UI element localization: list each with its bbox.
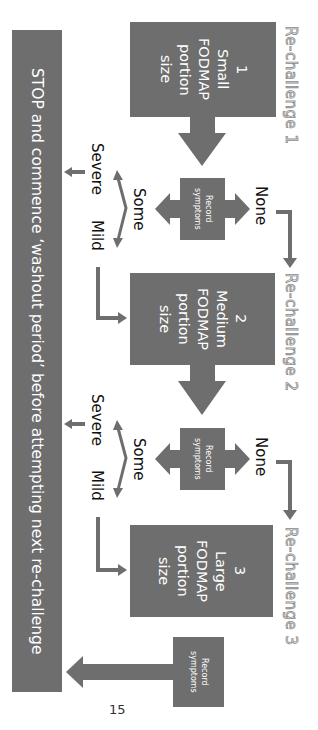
rechallenge-1-size: Small [213, 49, 232, 89]
symptoms-label: symptoms [189, 651, 198, 693]
rechallenge-3-step: 3 [230, 566, 249, 575]
rechallenge-2-size: Medium [212, 290, 231, 348]
record-symptoms-2: Recordsymptoms [180, 428, 225, 490]
outcome-none-2: None [252, 437, 270, 476]
outcome-none-1: None [252, 186, 270, 225]
page-number: 15 [109, 702, 126, 717]
fork-some2 [118, 428, 126, 490]
portion-label: portion [173, 545, 192, 597]
record-label: Record [204, 445, 213, 473]
outcome-severe-1: Severe [88, 143, 106, 195]
rechallenge-1-step: 1 [232, 65, 251, 74]
size-label: size [156, 55, 175, 83]
rechallenge-3-box: 3 Large FODMAP portion size [130, 525, 273, 617]
arrow-severe2-to-stop [64, 419, 85, 429]
arrow-box1-to-record1 [178, 117, 226, 166]
arrow-none1-to-box2 [276, 212, 290, 258]
record-symptoms-1: Recordsymptoms [180, 178, 225, 240]
outcome-mild-1: Mild [88, 220, 106, 251]
fork-some1 [118, 178, 126, 240]
symptoms-label: symptoms [193, 188, 202, 230]
rechallenge-2-title: Re-challenge 2 [282, 273, 300, 391]
portion-label: portion [174, 293, 193, 345]
rechallenge-3-title: Re-challenge 3 [282, 527, 300, 645]
size-label: size [155, 305, 174, 333]
outcome-some-2: Some [130, 438, 148, 481]
arrow-box2-to-record2 [178, 365, 226, 415]
stop-washout-bar: STOP and commence ‘washout period’ befor… [12, 30, 62, 692]
outcome-mild-2: Mild [88, 470, 106, 501]
arrow-mild2-to-box3 [98, 517, 118, 570]
record-label: Record [204, 195, 213, 223]
rechallenge-2-box: 2 Medium FODMAP portion size [130, 273, 275, 365]
fodmap-label: FODMAP [193, 288, 212, 350]
symptoms-label: symptoms [193, 438, 202, 480]
rechallenge-2-step: 2 [231, 314, 250, 323]
outcome-some-1: Some [130, 188, 148, 231]
arrow-record3-to-stop [66, 656, 175, 688]
stop-washout-text: STOP and commence ‘washout period’ befor… [12, 30, 62, 692]
rechallenge-3-size: Large [211, 551, 230, 592]
record-label: Record [200, 658, 209, 686]
arrow-mild1-to-box2 [98, 267, 118, 318]
fodmap-label: FODMAP [194, 38, 213, 100]
arrow-severe1-to-stop [64, 167, 85, 177]
record-symptoms-3: Recordsymptoms [173, 637, 224, 707]
outcome-severe-2: Severe [88, 394, 106, 446]
fodmap-label: FODMAP [192, 540, 211, 602]
arrow-none2-to-box3 [276, 462, 290, 510]
portion-label: portion [175, 44, 194, 96]
size-label: size [154, 557, 173, 585]
rechallenge-1-box: 1 Small FODMAP portion size [130, 22, 276, 117]
rechallenge-1-title: Re-challenge 1 [282, 26, 300, 144]
